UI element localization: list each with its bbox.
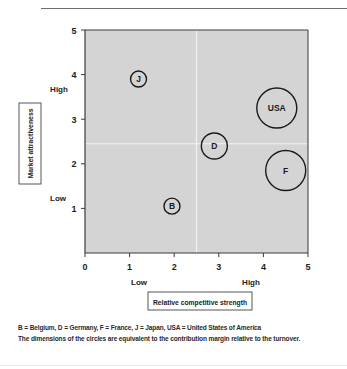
annotation-note: The dimensions of the circles are equiva… — [18, 334, 300, 343]
x-tick-label: 1 — [127, 262, 132, 272]
x-tick-label: 4 — [261, 262, 266, 272]
x-tick-label: 2 — [172, 262, 177, 272]
bubble-label-d: D — [211, 141, 217, 151]
bubble-label-f: F — [283, 166, 288, 176]
y-tick-label: 3 — [71, 115, 76, 125]
x-low-label: Low — [131, 278, 148, 287]
bottom-rule — [0, 365, 347, 366]
bubble-chart: 01234512345LowHighHighLowRelative compet… — [0, 0, 347, 320]
y-tick-label: 5 — [71, 26, 76, 36]
x-tick-label: 5 — [305, 262, 310, 272]
bubble-label-j: J — [136, 74, 141, 84]
y-tick-label: 4 — [71, 70, 76, 80]
y-tick-label: 2 — [71, 159, 76, 169]
bubble-label-usa: USA — [268, 103, 286, 113]
y-high-label: High — [50, 85, 68, 94]
legend-note: B = Belgium, D = Germany, F = France, J … — [18, 323, 261, 332]
x-axis-label: Relative competitive strength — [153, 298, 247, 307]
x-tick-label: 3 — [216, 262, 221, 272]
y-low-label: Low — [50, 194, 67, 203]
y-tick-label: 1 — [71, 204, 76, 214]
y-axis-label: Market attractiveness — [26, 109, 35, 179]
x-tick-label: 0 — [82, 262, 87, 272]
x-high-label: High — [242, 278, 260, 287]
bubble-label-b: B — [169, 201, 175, 211]
plot-area: 01234512345LowHighHighLowRelative compet… — [19, 26, 311, 311]
